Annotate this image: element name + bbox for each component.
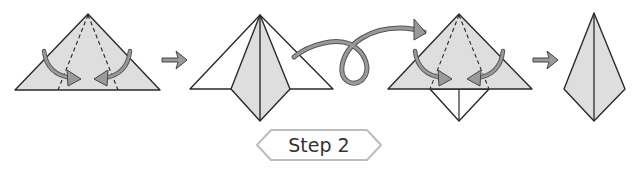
step-label-badge: Step 2 xyxy=(257,130,381,160)
next-step-arrow-icon xyxy=(533,51,558,69)
figure-4 xyxy=(564,13,625,121)
figure-2 xyxy=(190,15,333,121)
next-step-arrow-icon xyxy=(162,51,187,69)
step-label: Step 2 xyxy=(288,134,349,156)
figure-1 xyxy=(15,14,160,90)
origami-diagram: Step 2 xyxy=(0,0,636,176)
